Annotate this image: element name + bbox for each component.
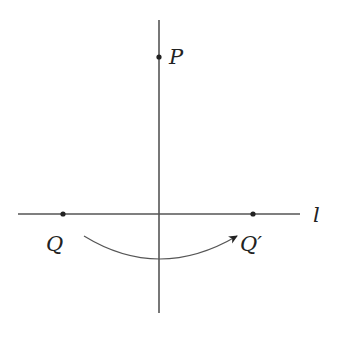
label-q: Q bbox=[46, 234, 63, 255]
point-q-dot bbox=[60, 211, 65, 216]
label-line-l: l bbox=[313, 205, 320, 226]
point-q-prime-dot bbox=[250, 211, 255, 216]
diagram-canvas: P Q Q′ l bbox=[0, 0, 346, 344]
label-q-prime: Q′ bbox=[240, 234, 262, 255]
rotation-arc-arrow bbox=[84, 236, 237, 259]
label-p: P bbox=[169, 47, 183, 68]
point-p-dot bbox=[156, 54, 161, 59]
